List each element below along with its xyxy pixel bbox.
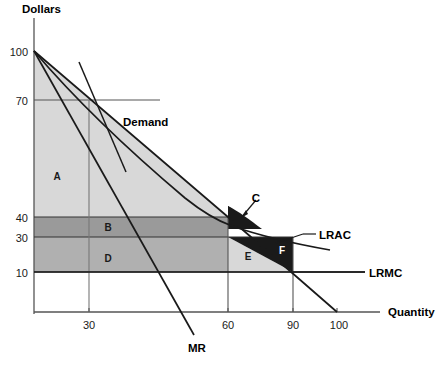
x-tick-label-90: 90 <box>287 319 299 331</box>
chart-svg: Dollars Quantity 100 70 40 30 10 30 60 9… <box>0 0 441 365</box>
y-tick-label-70: 70 <box>16 95 28 107</box>
region-d-shape <box>34 237 228 272</box>
economics-cost-curve-figure: Dollars Quantity 100 70 40 30 10 30 60 9… <box>0 0 441 365</box>
y-tick-label-30: 30 <box>16 232 28 244</box>
region-f-label: F <box>279 245 285 256</box>
y-tick-label-40: 40 <box>16 212 28 224</box>
x-tick-label-30: 30 <box>83 319 95 331</box>
y-tick-label-10: 10 <box>16 267 28 279</box>
y-axis-title: Dollars <box>22 3 61 15</box>
demand-label: Demand <box>123 116 168 128</box>
lrac-label: LRAC <box>319 229 351 241</box>
x-axis-title: Quantity <box>388 306 435 318</box>
region-a-label: A <box>53 171 60 182</box>
x-tick-label-100: 100 <box>330 319 348 331</box>
region-b-shape <box>34 217 228 237</box>
region-c-label: C <box>252 192 260 204</box>
y-tick-label-100: 100 <box>10 46 28 58</box>
mr-label: MR <box>188 342 207 354</box>
lrmc-label: LRMC <box>369 267 402 279</box>
x-tick-label-60: 60 <box>222 319 234 331</box>
region-d-label: D <box>104 253 111 264</box>
region-e-label: E <box>245 251 252 262</box>
region-b-label: B <box>104 222 111 233</box>
